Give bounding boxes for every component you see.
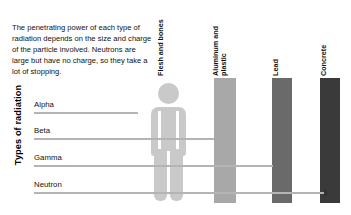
radiation-label-gamma: Gamma (34, 153, 62, 162)
y-axis-title: Types of radiation (13, 80, 23, 170)
intro-paragraph: The penetrating power of each type of ra… (12, 22, 152, 77)
barrier-bar-concrete (320, 78, 340, 203)
radiation-ray-beta (34, 138, 214, 140)
radiation-label-beta: Beta (34, 126, 50, 135)
radiation-label-neutron: Neutron (34, 180, 62, 189)
barrier-label-flesh: Flesh and bones (157, 2, 165, 76)
barrier-label-lead: Lead (272, 2, 280, 76)
radiation-label-alpha: Alpha (34, 100, 54, 109)
barrier-label-concrete: Concrete (320, 2, 328, 76)
barrier-bar-aluminum (214, 78, 236, 203)
person-arm-gap-left (158, 111, 161, 153)
person-head (158, 83, 179, 104)
barrier-bar-lead (272, 78, 292, 203)
person-icon (148, 83, 194, 203)
radiation-ray-gamma (34, 165, 273, 167)
radiation-arrowhead-neutron (324, 189, 329, 197)
radiation-penetration-diagram: The penetrating power of each type of ra… (0, 0, 351, 215)
radiation-ray-alpha (34, 112, 138, 114)
person-arm-gap-right (176, 111, 179, 153)
barrier-label-aluminum: Aluminum and plastic (212, 2, 229, 76)
radiation-ray-neutron (34, 192, 327, 194)
